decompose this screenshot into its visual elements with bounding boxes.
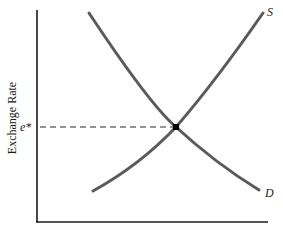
demand-label: D — [264, 186, 274, 200]
equilibrium-point — [173, 124, 179, 130]
supply-demand-diagram: S D e* Exchange Rate — [0, 0, 283, 228]
demand-curve — [89, 13, 259, 190]
e-star-label: e* — [20, 120, 31, 134]
y-axis-label: Exchange Rate — [5, 82, 19, 154]
supply-label: S — [267, 5, 273, 19]
supply-curve — [93, 13, 263, 191]
